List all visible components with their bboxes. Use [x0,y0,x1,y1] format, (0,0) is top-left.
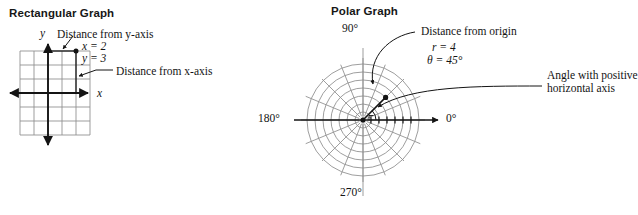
polar-angle-label-0: 0° [446,112,456,124]
polar-angle-label-270: 270° [340,186,362,198]
polar-radius-ray [363,97,386,120]
polar-angle-label-90: 90° [342,22,358,34]
polar-plotted-point [383,95,388,100]
rect-y-axis-label: y [40,27,45,39]
polar-annotation-angle-line2: horizontal axis [547,81,615,95]
polar-label-r-value: r = 4 [432,41,456,53]
polar-annotation-angle-line1: Angle with positive [547,68,638,82]
rect-plotted-point [74,49,79,54]
rect-annotation-distance-from-x-axis: Distance from x-axis [116,64,212,78]
rect-annotation-distance-from-y-axis: Distance from y-axis [57,27,153,41]
rect-label-x-value: x = 2 [82,40,106,52]
polar-origin-point [360,117,365,122]
rectangular-graph-panel: Rectangular Graph [0,0,286,215]
rect-x-axis-label: x [97,87,102,99]
polar-annotation-distance-from-origin: Distance from origin [421,24,517,38]
polar-leader-distance-from-origin [372,32,415,84]
polar-graph-panel: Polar Graph [286,0,572,215]
polar-label-theta-value: θ = 45° [427,54,462,66]
polar-angle-label-180: 180° [258,112,280,124]
rect-label-y-value: y = 3 [82,52,106,64]
rect-leader-distance-from-x-axis [79,70,113,76]
